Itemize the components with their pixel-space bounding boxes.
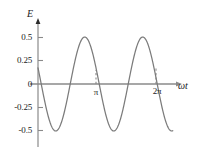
x-tick-label-pi: π xyxy=(94,87,98,97)
y-tick-label-3: -0.25 xyxy=(0,102,32,112)
x-axis-ticks xyxy=(96,68,156,84)
y-axis-arrow-icon xyxy=(36,18,41,24)
y-tick-label-0: 0.5 xyxy=(2,32,32,42)
chart-container: 0.5 0.25 0 -0.25 -0.5 π 2π E ωt xyxy=(0,0,200,153)
y-tick-label-1: 0.25 xyxy=(2,55,32,65)
y-axis-title: E xyxy=(27,8,33,19)
x-tick-label-2pi: 2π xyxy=(153,86,162,96)
y-tick-label-4: -0.5 xyxy=(0,125,32,135)
x-axis-title: ωt xyxy=(178,80,188,91)
y-tick-label-2: 0 xyxy=(2,79,32,89)
